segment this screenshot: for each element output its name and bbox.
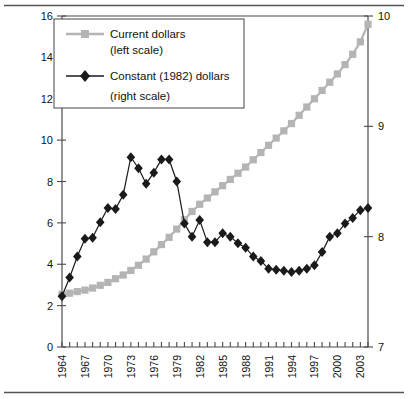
- marker-square-current-dollars: [311, 95, 318, 102]
- marker-square-current-dollars: [326, 79, 333, 86]
- marker-square-current-dollars: [150, 248, 157, 255]
- marker-square-current-dollars: [166, 234, 173, 241]
- marker-square-current-dollars: [74, 288, 81, 295]
- x-axis-tick-label: 1994: [286, 355, 298, 379]
- marker-square-current-dollars: [303, 103, 310, 110]
- marker-square-current-dollars: [296, 112, 303, 119]
- x-axis-tick-label: 1991: [263, 355, 275, 379]
- marker-square-current-dollars: [334, 70, 341, 77]
- marker-square-current-dollars: [257, 149, 264, 156]
- legend-label-constant-dollars: Constant (1982) dollars: [110, 70, 230, 82]
- legend-sublabel-current-dollars: (left scale): [110, 44, 163, 56]
- marker-square-current-dollars: [97, 282, 104, 289]
- chart-legend: Current dollars(left scale)Constant (198…: [54, 19, 244, 108]
- left-axis-tick-label: 14: [41, 51, 53, 63]
- marker-square-current-dollars: [242, 163, 249, 170]
- left-axis-tick-label: 4: [47, 258, 53, 270]
- marker-square-current-dollars: [227, 176, 234, 183]
- right-axis-tick-label: 10: [378, 10, 390, 22]
- left-axis-tick-label: 10: [41, 134, 53, 146]
- x-axis-tick-label: 1997: [308, 355, 320, 379]
- marker-square-current-dollars: [319, 87, 326, 94]
- x-axis-tick-label: 1967: [79, 355, 91, 379]
- marker-square-current-dollars: [211, 188, 218, 195]
- x-axis-tick-label: 1970: [102, 355, 114, 379]
- left-axis-tick-label: 6: [47, 217, 53, 229]
- x-axis-tick-label: 2000: [331, 355, 343, 379]
- marker-square-current-dollars: [188, 208, 195, 215]
- legend-label-current-dollars: Current dollars: [110, 28, 186, 40]
- marker-square-current-dollars: [173, 225, 180, 232]
- x-axis-tick-label: 1979: [171, 355, 183, 379]
- marker-square-current-dollars: [364, 21, 371, 28]
- marker-square-current-dollars: [280, 127, 287, 134]
- left-axis-tick-label: 2: [47, 300, 53, 312]
- left-axis-tick-label: 12: [41, 93, 53, 105]
- dual-axis-line-chart: 0246810121416789101964196719701973197619…: [0, 0, 408, 399]
- legend-sublabel-constant-dollars: (right scale): [110, 90, 170, 102]
- x-axis-tick-label: 1988: [240, 355, 252, 379]
- marker-square-current-dollars: [66, 290, 73, 297]
- marker-square-current-dollars: [81, 287, 88, 294]
- marker-square-current-dollars: [196, 201, 203, 208]
- right-axis-tick-label: 9: [378, 120, 384, 132]
- left-axis-tick-label: 0: [47, 341, 53, 353]
- x-axis-tick-label: 1985: [217, 355, 229, 379]
- marker-square-current-dollars: [120, 271, 127, 278]
- marker-square-current-dollars: [219, 182, 226, 189]
- marker-square-current-dollars: [204, 194, 211, 201]
- x-axis-tick-label: 2003: [354, 355, 366, 379]
- marker-square-current-dollars: [341, 61, 348, 68]
- marker-square-current-dollars: [143, 255, 150, 262]
- chart-figure: 0246810121416789101964196719701973197619…: [0, 0, 408, 399]
- marker-square-current-dollars: [158, 241, 165, 248]
- marker-square-current-dollars: [135, 262, 142, 269]
- marker-square-current-dollars: [104, 279, 111, 286]
- x-axis-tick-label: 1973: [125, 355, 137, 379]
- right-axis-tick-label: 8: [378, 231, 384, 243]
- x-axis-tick-label: 1964: [56, 355, 68, 379]
- marker-square-current-dollars: [357, 38, 364, 45]
- marker-square-current-dollars: [89, 284, 96, 291]
- marker-square-current-dollars: [265, 142, 272, 149]
- right-axis-tick-label: 7: [378, 341, 384, 353]
- marker-square-current-dollars: [349, 51, 356, 58]
- x-axis-tick-label: 1976: [148, 355, 160, 379]
- legend-square-marker-icon: [81, 30, 89, 38]
- marker-square-current-dollars: [288, 120, 295, 127]
- marker-square-current-dollars: [250, 156, 257, 163]
- left-axis-tick-label: 8: [47, 176, 53, 188]
- marker-square-current-dollars: [273, 134, 280, 141]
- x-axis-tick-label: 1982: [194, 355, 206, 379]
- left-axis-tick-label: 16: [41, 10, 53, 22]
- marker-square-current-dollars: [127, 267, 134, 274]
- marker-square-current-dollars: [112, 275, 119, 282]
- marker-square-current-dollars: [234, 170, 241, 177]
